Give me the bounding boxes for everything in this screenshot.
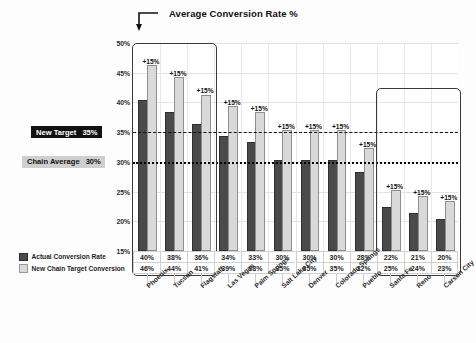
chart-title: Average Conversion Rate %	[169, 8, 298, 19]
title-arrow-icon	[132, 10, 166, 32]
delta-label-pueblo: +15%	[359, 141, 376, 148]
legend-item-actual: Actual Conversion Rate	[19, 251, 133, 263]
table-cell: 38%	[160, 251, 187, 263]
bar-target-denver	[310, 130, 320, 251]
bar-target-las-vegas	[228, 106, 238, 251]
y-tick-50: 50%	[104, 40, 130, 47]
vertical-gridline	[296, 43, 297, 251]
table-cell: 22%	[377, 251, 404, 263]
bar-target-salt-lake-city	[282, 130, 292, 251]
table-row-actual: 40%38%36%34%33%30%30%30%28%22%21%20%	[133, 251, 458, 263]
delta-label-las-vegas: +15%	[224, 99, 241, 106]
chart-legend: Actual Conversion Rate New Chain Target …	[19, 251, 133, 274]
delta-label-denver: +15%	[305, 123, 322, 130]
delta-label-colorado-springs: +15%	[332, 123, 349, 130]
chain-average-value: 30%	[86, 157, 101, 166]
legend-swatch-icon-target	[19, 264, 28, 273]
delta-label-salt-lake-city: +15%	[278, 123, 295, 130]
y-tick-20: 20%	[104, 218, 130, 225]
y-tick-45: 45%	[104, 69, 130, 76]
chain-average-badge: Chain Average 30%	[22, 156, 105, 168]
new-target-value: 35%	[82, 128, 97, 137]
table-cell: 20%	[431, 251, 458, 263]
y-axis: 50% 45% 40% 35% 30% 25% 20% 15%	[104, 43, 130, 251]
delta-label-palm-springs: +15%	[251, 105, 268, 112]
highlight-box-top-performers	[132, 43, 217, 276]
x-axis-labels: PhoenixTucsonFlagstaffLas VegasPalm Spri…	[133, 274, 458, 334]
new-target-badge: New Target 35%	[31, 126, 102, 138]
table-cell: 33%	[241, 251, 268, 263]
y-tick-25: 25%	[104, 188, 130, 195]
highlight-box-under-performers	[376, 88, 461, 276]
table-cell: 21%	[404, 251, 431, 263]
table-cell: 40%	[133, 251, 160, 263]
chain-average-label: Chain Average	[27, 157, 80, 166]
bar-target-colorado-springs	[337, 130, 347, 251]
table-cell: 30%	[323, 251, 350, 263]
chart-title-area: Average Conversion Rate %	[132, 8, 452, 34]
table-cell: 36%	[187, 251, 214, 263]
new-target-label: New Target	[36, 128, 76, 137]
table-cell: 34%	[214, 251, 241, 263]
legend-label-actual: Actual Conversion Rate	[32, 253, 106, 260]
vertical-gridline	[323, 43, 324, 251]
vertical-gridline	[350, 43, 351, 251]
vertical-gridline	[241, 43, 242, 251]
legend-label-target: New Chain Target Conversion	[32, 265, 125, 272]
vertical-gridline	[268, 43, 269, 251]
y-tick-30: 30%	[104, 158, 130, 165]
legend-item-target: New Chain Target Conversion	[19, 263, 133, 275]
legend-swatch-icon-actual	[19, 253, 28, 262]
y-tick-40: 40%	[104, 99, 130, 106]
y-tick-35: 35%	[104, 129, 130, 136]
